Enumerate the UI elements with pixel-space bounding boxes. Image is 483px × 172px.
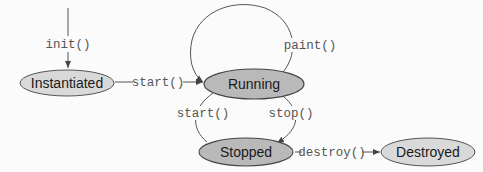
state-stopped-label: Stopped: [220, 144, 272, 160]
transition-init: init(): [45, 8, 90, 68]
state-instantiated-label: Instantiated: [31, 75, 103, 91]
state-running-label: Running: [228, 76, 280, 92]
state-running: Running: [204, 69, 304, 99]
paint-label: paint(): [284, 39, 337, 53]
state-instantiated: Instantiated: [20, 70, 114, 96]
transition-start-instantiated-running: start(): [115, 76, 203, 90]
start-label-2: start(): [177, 107, 230, 121]
stop-label: stop(): [268, 107, 313, 121]
init-label: init(): [45, 38, 90, 52]
state-destroyed: Destroyed: [381, 138, 475, 166]
state-stopped: Stopped: [199, 138, 293, 166]
transition-start-stopped-running: start(): [175, 93, 233, 142]
transition-stop: stop(): [268, 96, 318, 143]
transition-destroy: destroy(): [295, 146, 380, 160]
destroy-label: destroy(): [298, 146, 366, 160]
lifecycle-diagram: init() start() paint() stop() start() de…: [0, 0, 483, 172]
state-destroyed-label: Destroyed: [396, 144, 460, 160]
start-label-1: start(): [132, 76, 185, 90]
